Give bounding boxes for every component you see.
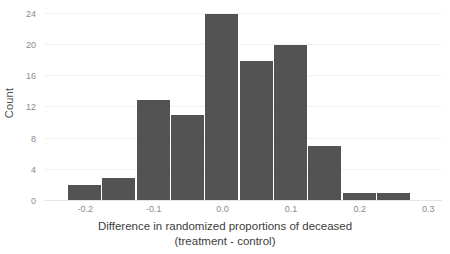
histogram-bar [240, 61, 273, 201]
histogram-bar [308, 146, 341, 201]
x-axis-title: Difference in randomized proportions of … [0, 219, 450, 249]
x-axis-baseline [44, 200, 442, 201]
y-axis-tick-label: 12 [26, 102, 36, 112]
plot-panel [44, 6, 442, 201]
y-axis-tick-label: 16 [26, 71, 36, 81]
x-axis-tick-label: 0.1 [285, 204, 298, 214]
x-axis-tick-label: 0.3 [422, 204, 435, 214]
histogram-figure: Count 04812162024 -0.2-0.10.00.10.20.3 D… [0, 0, 450, 254]
x-axis-tick-label: -0.1 [146, 204, 162, 214]
y-axis-tick-label: 20 [26, 40, 36, 50]
y-axis-title-label: Count [3, 87, 15, 117]
histogram-bar [102, 178, 135, 201]
x-axis-tick-label: 0.2 [353, 204, 366, 214]
histogram-bars [44, 6, 442, 201]
y-axis-tick-label: 0 [31, 196, 36, 206]
x-axis-tick-labels: -0.2-0.10.00.10.20.3 [44, 204, 442, 218]
y-axis-tick-label: 8 [31, 134, 36, 144]
y-axis-tick-labels: 04812162024 [18, 0, 40, 205]
y-axis-title: Count [0, 0, 18, 205]
y-axis-tick-label: 24 [26, 9, 36, 19]
y-axis-tick-label: 4 [31, 165, 36, 175]
x-axis-title-line-1: Difference in randomized proportions of … [0, 219, 450, 234]
histogram-bar [274, 45, 307, 201]
histogram-bar [137, 100, 170, 201]
x-axis-title-line-2: (treatment - control) [0, 234, 450, 249]
x-axis-tick-label: 0.0 [216, 204, 229, 214]
histogram-bar [68, 185, 101, 201]
histogram-bar [205, 14, 238, 201]
x-axis-tick-label: -0.2 [77, 204, 93, 214]
histogram-bar [171, 115, 204, 201]
